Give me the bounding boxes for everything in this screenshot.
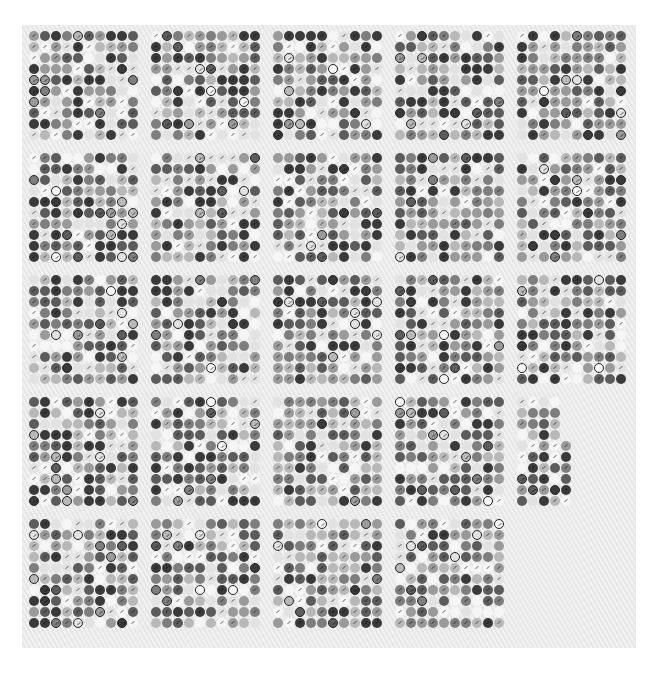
bottle-cap <box>550 430 560 440</box>
bottle-cap <box>372 319 382 329</box>
bottle-cap <box>572 397 582 407</box>
cap-logo-icon <box>76 343 80 346</box>
cap-logo-icon <box>520 299 524 302</box>
bottle-cap <box>173 408 183 418</box>
bottle-cap <box>428 530 438 540</box>
cap-logo-icon <box>98 521 102 524</box>
cap-logo-icon <box>409 476 413 479</box>
cap-logo-icon <box>453 532 457 535</box>
bottle-cap <box>517 197 527 207</box>
cap-logo-icon <box>597 299 601 302</box>
cap-logo-icon <box>98 565 102 568</box>
cap-logo-icon <box>231 498 235 501</box>
bottle-cap <box>317 452 327 462</box>
cap-logo-icon <box>298 421 302 424</box>
bottle-cap <box>206 119 216 129</box>
cap-logo-icon <box>576 178 580 181</box>
bottle-cap <box>73 463 83 473</box>
cap-logo-icon <box>76 443 80 446</box>
bottle-cap <box>273 130 283 140</box>
bottle-cap <box>605 119 615 129</box>
bottle-cap <box>406 241 416 251</box>
cap-logo-icon <box>553 33 557 36</box>
cap-logo-icon <box>44 599 48 602</box>
cap-logo-icon <box>431 288 435 291</box>
cap-logo-icon <box>187 521 191 524</box>
bottle-cap <box>517 97 527 107</box>
bottle-cap <box>162 463 172 473</box>
cap-logo-icon <box>65 609 69 612</box>
bottle-cap <box>372 230 382 240</box>
cap-logo-icon <box>364 454 368 457</box>
cap-logo-icon <box>176 465 180 468</box>
bottle-cap <box>228 286 238 296</box>
bottle-cap <box>128 219 138 229</box>
bottle-cap <box>162 308 172 318</box>
bottle-cap <box>95 219 105 229</box>
bottle-cap <box>372 496 382 506</box>
bottle-cap <box>594 119 604 129</box>
cap-logo-icon <box>231 132 235 135</box>
bottle-cap <box>73 297 83 307</box>
bottle-cap <box>350 219 360 229</box>
bottle-cap <box>128 430 138 440</box>
bottle-cap <box>184 252 194 262</box>
cap-logo-icon <box>98 498 102 501</box>
cap-logo-icon <box>608 121 612 124</box>
bottle-cap <box>350 419 360 429</box>
cap-logo-icon <box>231 277 235 280</box>
bottle-cap <box>328 563 338 573</box>
bottle-cap <box>51 319 61 329</box>
cap-logo-icon <box>109 199 113 202</box>
bottle-cap <box>428 585 438 595</box>
bottle-cap <box>561 75 571 85</box>
bottle-cap <box>428 219 438 229</box>
cap-logo-icon <box>608 221 612 224</box>
cap-logo-icon <box>564 443 568 446</box>
bottle-cap <box>417 75 427 85</box>
bottle-cap <box>317 530 327 540</box>
bottle-cap <box>217 618 227 628</box>
bottle-cap <box>539 363 549 373</box>
bottle-cap <box>406 496 416 506</box>
cap-logo-icon <box>531 343 535 346</box>
bottle-cap <box>339 297 349 307</box>
cap-logo-icon <box>220 454 224 457</box>
bottle-cap <box>62 64 72 74</box>
bottle-cap <box>350 31 360 41</box>
bottle-cap <box>295 97 305 107</box>
bottle-cap <box>173 463 183 473</box>
bottle-cap <box>605 430 615 440</box>
bottle-cap <box>128 330 138 340</box>
cap-logo-icon <box>76 410 80 413</box>
bottle-cap <box>173 541 183 551</box>
cap-logo-icon <box>43 376 47 379</box>
bottle-cap <box>106 275 116 285</box>
bottle-cap <box>51 397 61 407</box>
bottle-cap <box>483 208 493 218</box>
cap-logo-icon <box>54 221 58 224</box>
bottle-cap <box>273 108 283 118</box>
bottle-cap <box>29 175 39 185</box>
bottle-cap <box>250 42 260 52</box>
cap-logo-icon <box>242 543 246 546</box>
cap-logo-icon <box>420 332 424 335</box>
cap-logo-icon <box>619 121 623 124</box>
bottle-cap <box>295 452 305 462</box>
bottle-cap <box>339 419 349 429</box>
bottle-cap <box>572 119 582 129</box>
cap-logo-icon <box>564 210 568 213</box>
bottle-cap <box>95 552 105 562</box>
cap-logo-icon <box>464 177 468 180</box>
cap-logo-icon <box>398 476 402 479</box>
bottle-cap <box>173 552 183 562</box>
cap-panel <box>272 518 382 628</box>
bottle-cap <box>450 541 460 551</box>
bottle-cap <box>117 319 127 329</box>
cap-logo-icon <box>409 66 413 69</box>
bottle-cap <box>62 541 72 551</box>
bottle-cap <box>494 452 504 462</box>
bottle-cap <box>217 563 227 573</box>
bottle-cap <box>273 363 283 373</box>
cap-logo-icon <box>198 399 202 402</box>
